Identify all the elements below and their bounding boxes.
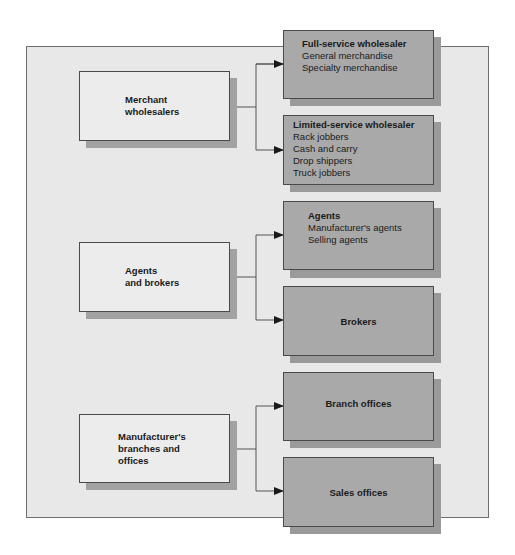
manufacturers-branches-box: Manufacturer's branches and offices xyxy=(79,414,230,483)
box-item: Rack jobbers xyxy=(293,131,414,143)
box-item: Specialty merchandise xyxy=(302,62,407,74)
box-item: Truck jobbers xyxy=(293,167,414,179)
brokers-box: Brokers xyxy=(283,286,434,356)
box-title: Full-service wholesaler xyxy=(302,38,407,50)
source-label-line: Manufacturer's xyxy=(118,431,186,443)
limited-service-wholesaler-box: Limited-service wholesaler Rack jobbers … xyxy=(283,115,434,185)
box-title: Limited-service wholesaler xyxy=(293,119,414,131)
agents-and-brokers-box: Agents and brokers xyxy=(79,242,230,312)
source-label-line: branches and xyxy=(118,443,186,455)
box-item: Selling agents xyxy=(308,234,402,246)
box-title: Sales offices xyxy=(284,487,433,498)
source-label-line: and brokers xyxy=(125,277,179,289)
box-item: Manufacturer's agents xyxy=(308,222,402,234)
merchant-wholesalers-box: Merchant wholesalers xyxy=(79,71,230,141)
source-label-line: offices xyxy=(118,455,186,467)
sales-offices-box: Sales offices xyxy=(283,457,434,527)
branch-offices-box: Branch offices xyxy=(283,372,434,441)
source-label-line: wholesalers xyxy=(125,106,179,118)
box-title: Agents xyxy=(308,210,402,222)
agents-box: Agents Manufacturer's agents Selling age… xyxy=(283,201,434,270)
box-title: Branch offices xyxy=(284,397,433,408)
box-item: Drop shippers xyxy=(293,155,414,167)
full-service-wholesaler-box: Full-service wholesaler General merchand… xyxy=(283,30,434,99)
source-label-line: Agents xyxy=(125,265,179,277)
box-title: Brokers xyxy=(284,316,433,327)
source-label-line: Merchant xyxy=(125,94,179,106)
box-item: General merchandise xyxy=(302,50,407,62)
box-item: Cash and carry xyxy=(293,143,414,155)
